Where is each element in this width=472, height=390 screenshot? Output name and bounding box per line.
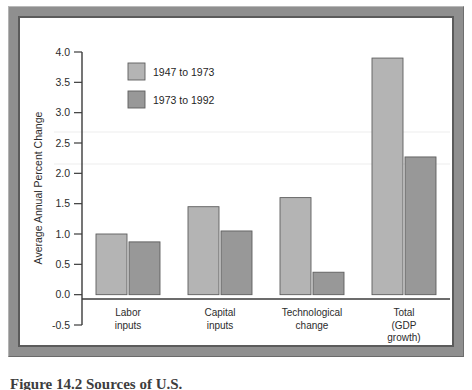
legend-swatch: [128, 91, 145, 108]
y-tick-label: 0.0: [55, 288, 70, 300]
chart-svg: -0.50.00.51.01.52.02.53.03.54.0 Laborinp…: [20, 18, 454, 347]
y-tick-label: 1.0: [55, 228, 70, 240]
bar: [188, 207, 219, 295]
bar: [221, 231, 252, 295]
y-tick-label: 2.0: [55, 167, 70, 179]
chart-legend: 1947 to 19731973 to 1992: [128, 63, 214, 108]
y-axis-tick-labels: -0.50.00.51.01.52.02.53.03.54.0: [52, 46, 70, 331]
y-tick-label: 2.5: [55, 137, 70, 149]
y-tick-label: 0.5: [55, 258, 70, 270]
bar: [129, 242, 160, 295]
x-category-label: change: [296, 320, 329, 331]
x-axis-category-labels: LaborinputsCapitalinputsTechnologicalcha…: [115, 307, 421, 343]
figure-plate: -0.50.00.51.01.52.02.53.03.54.0 Laborinp…: [20, 18, 452, 345]
x-category-label: Labor: [115, 307, 141, 318]
y-tick-label: 1.5: [55, 197, 70, 209]
x-category-label: inputs: [115, 320, 142, 331]
figure-frame: -0.50.00.51.01.52.02.53.03.54.0 Laborinp…: [8, 6, 464, 357]
x-category-label: Capital: [204, 307, 235, 318]
x-category-label: Total: [393, 307, 414, 318]
y-axis-ticks: [74, 52, 82, 325]
figure-caption: Figure 14.2 Sources of U.S.: [10, 376, 310, 390]
bar: [313, 272, 344, 294]
x-category-label: Technological: [282, 307, 343, 318]
y-tick-label: 4.0: [55, 46, 70, 58]
y-axis-title: Average Annual Percent Change: [32, 111, 44, 264]
y-tick-label: -0.5: [52, 319, 70, 331]
bar-series-group: [96, 58, 436, 295]
bar: [280, 198, 311, 295]
x-category-label: (GDP: [392, 320, 417, 331]
bar: [372, 58, 403, 295]
legend-label: 1973 to 1992: [153, 94, 214, 106]
bar: [96, 234, 127, 295]
y-tick-label: 3.5: [55, 76, 70, 88]
legend-swatch: [128, 63, 145, 80]
bar: [405, 157, 436, 295]
legend-label: 1947 to 1973: [153, 66, 214, 78]
figure-frame-bevel: -0.50.00.51.01.52.02.53.03.54.0 Laborinp…: [18, 16, 454, 347]
y-tick-label: 3.0: [55, 106, 70, 118]
x-category-label: inputs: [207, 320, 234, 331]
bar-chart: -0.50.00.51.01.52.02.53.03.54.0 Laborinp…: [20, 18, 452, 345]
x-category-label: growth): [387, 332, 420, 343]
